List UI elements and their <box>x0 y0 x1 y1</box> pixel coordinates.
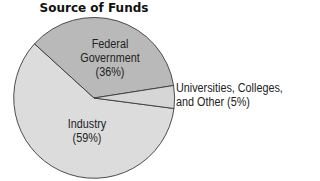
label-universities: Universities, Colleges, and Other (5%) <box>176 81 293 109</box>
label-federal-line2: Government <box>72 51 148 65</box>
label-industry-percent: (59%) <box>47 131 128 145</box>
label-universities-line2: and Other (5%) <box>176 95 293 109</box>
label-industry-line1: Industry <box>47 117 128 131</box>
label-federal-percent: (36%) <box>72 65 148 79</box>
label-industry: Industry (59%) <box>47 117 128 145</box>
label-federal-line1: Federal <box>72 37 148 51</box>
label-federal-government: Federal Government (36%) <box>72 37 148 79</box>
label-universities-line1: Universities, Colleges, <box>176 81 293 95</box>
